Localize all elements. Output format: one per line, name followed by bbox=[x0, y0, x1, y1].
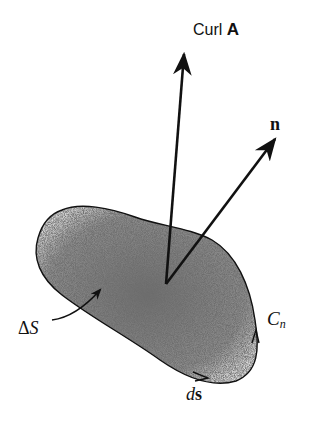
surface-delta-s bbox=[36, 206, 257, 383]
curl-a-label: Curl A bbox=[193, 20, 239, 40]
area-symbol: S bbox=[30, 318, 39, 338]
contour-symbol: C bbox=[267, 308, 280, 329]
delta-symbol: Δ bbox=[18, 318, 30, 338]
ds-d-symbol: d bbox=[186, 384, 195, 404]
ds-s-symbol: s bbox=[195, 384, 202, 404]
normal-n-label: n bbox=[270, 114, 280, 135]
curl-vector-symbol: A bbox=[227, 20, 239, 39]
curl-prefix-text: Curl bbox=[193, 21, 222, 38]
contour-subscript: n bbox=[280, 317, 286, 331]
contour-c-n-label: Cn bbox=[267, 308, 286, 332]
delta-s-label: ΔS bbox=[18, 318, 39, 339]
diagram-canvas bbox=[0, 0, 309, 434]
line-element-ds-label: ds bbox=[186, 384, 202, 405]
stokes-diagram: Curl A n ΔS Cn ds bbox=[0, 0, 309, 434]
